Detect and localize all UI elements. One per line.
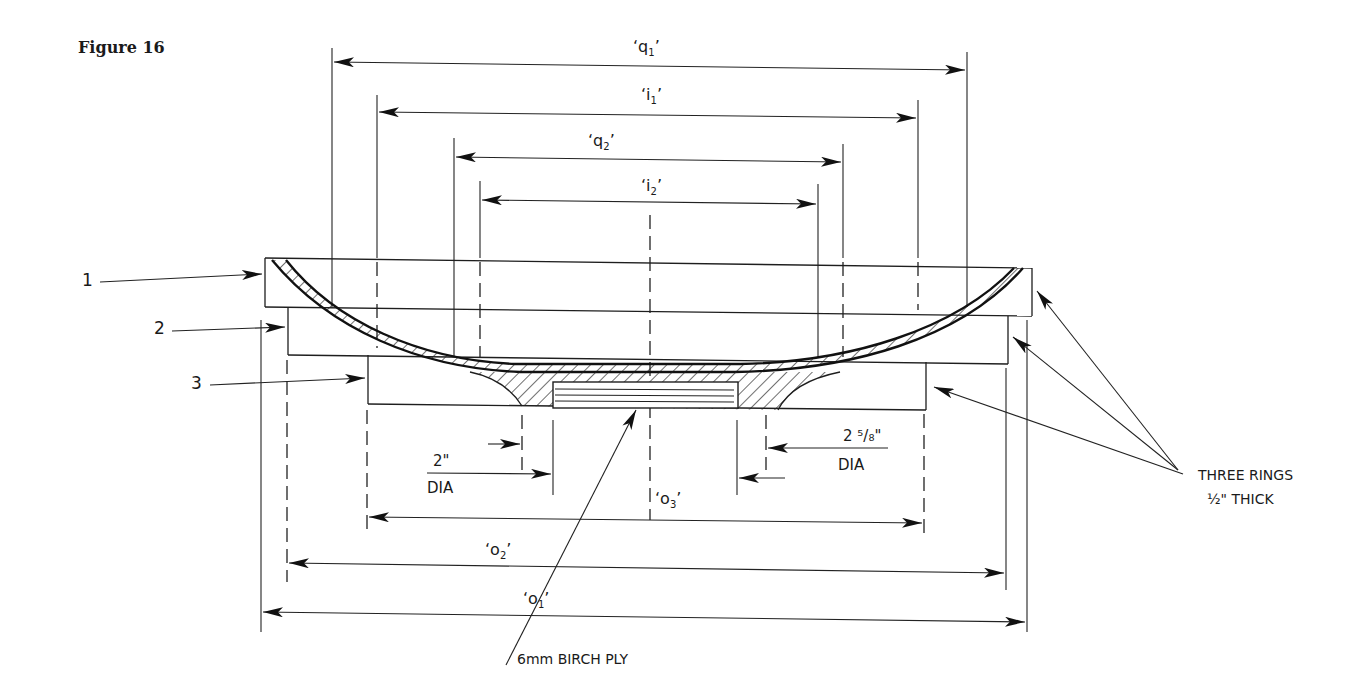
large-dia-unit: DIA — [838, 456, 865, 474]
bowl-cross-section-diagram: 1 2 3 2" DIA 2 ⁵/₈" DIA — [0, 0, 1370, 692]
ring-2 — [288, 307, 1008, 364]
part-3-leader: 3 — [191, 373, 365, 393]
part-1-label: 1 — [82, 270, 93, 290]
ring-1 — [265, 258, 1032, 316]
part-2-label: 2 — [154, 318, 165, 338]
three-rings-label: THREE RINGS — [1197, 467, 1293, 483]
label-q2: ‘q2’ — [588, 131, 615, 152]
label-o2: ‘o2’ — [485, 540, 511, 561]
small-dia-unit: DIA — [427, 479, 454, 497]
small-diameter-callout: 2" DIA — [427, 415, 553, 497]
birch-ply-callout: 6mm BIRCH PLY — [506, 410, 636, 667]
dimension-q2 — [454, 138, 843, 258]
ring-thickness-label: ½" THICK — [1207, 491, 1274, 507]
birch-ply-label: 6mm BIRCH PLY — [517, 651, 629, 667]
part-1-leader: 1 — [82, 270, 262, 290]
dimension-o3 — [367, 410, 924, 540]
label-q1: ‘q1’ — [633, 37, 660, 58]
part-3-label: 3 — [191, 373, 202, 393]
label-i2: ‘i2’ — [641, 176, 662, 197]
large-diameter-callout: 2 ⁵/₈" DIA — [737, 415, 888, 495]
birch-ply-insert — [553, 382, 738, 408]
label-i1: ‘i1’ — [641, 85, 662, 106]
part-2-leader: 2 — [154, 318, 285, 338]
label-o3: ‘o3’ — [655, 489, 681, 510]
small-dia-value: 2" — [433, 452, 449, 470]
large-dia-value: 2 ⁵/₈" — [843, 427, 881, 445]
three-rings-callout: THREE RINGS ½" THICK — [934, 291, 1293, 507]
